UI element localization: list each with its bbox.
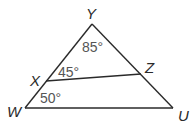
triangle-figure: Y X Z W U 85° 45° 50°	[0, 0, 193, 128]
angle-label-w: 50°	[40, 90, 61, 106]
vertex-label-w: W	[7, 103, 23, 120]
vertex-label-y: Y	[86, 5, 97, 22]
vertex-label-x: X	[29, 72, 41, 89]
vertex-label-u: U	[178, 107, 189, 124]
diagram-canvas: Y X Z W U 85° 45° 50°	[0, 0, 193, 128]
vertex-label-z: Z	[144, 59, 155, 76]
angle-label-yxz: 45°	[58, 64, 79, 80]
segment-yu	[92, 24, 173, 108]
angle-label-y: 85°	[82, 39, 103, 55]
